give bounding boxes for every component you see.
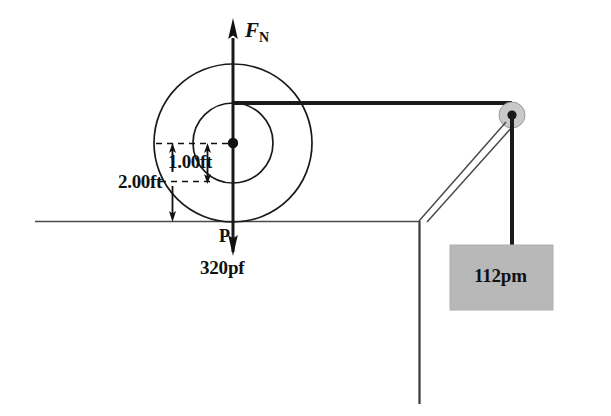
inner-radius-dimension-label: 1.00ft [168,152,212,171]
diagram-canvas [0,0,611,416]
support-strut-line-upper [419,122,506,221]
physics-diagram-figure: FN 1.00ft 2.00ft P 320pf 112pm [0,0,611,416]
outer-radius-dimension-label: 2.00ft [118,172,162,191]
normal-force-symbol: F [245,18,259,42]
applied-force-label: 320pf [200,258,244,277]
spool-center-dot [228,138,238,148]
normal-force-label: FN [245,20,269,45]
hanging-block-label: 112pm [474,266,527,285]
support-strut-line-lower [427,126,513,222]
normal-force-arrowhead [228,18,238,39]
normal-force-subscript: N [259,30,269,45]
contact-point-label: P [219,227,230,245]
